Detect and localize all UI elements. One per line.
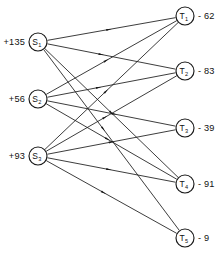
node-t1[interactable]: T1 xyxy=(176,7,194,25)
node-s1[interactable]: S1 xyxy=(29,33,47,51)
arcs-layer xyxy=(44,18,180,234)
arc-s2-t4 xyxy=(46,104,177,179)
arrowhead-s2-t1 xyxy=(103,59,108,63)
nodes-layer: S1S2S3T1T2T3T4T5 xyxy=(29,7,194,247)
demand-value-t3: - 39 xyxy=(198,123,215,133)
arc-s1-t2 xyxy=(47,44,175,69)
demand-value-t4: - 91 xyxy=(198,179,215,189)
arrowhead-s3-t2 xyxy=(102,116,107,120)
supply-value-s3: +93 xyxy=(9,151,25,161)
transportation-network-diagram: S1S2S3T1T2T3T4T5 +135+56+93- 62- 83- 39-… xyxy=(0,0,218,255)
node-s3[interactable]: S3 xyxy=(29,147,47,165)
demand-value-t1: - 62 xyxy=(198,11,215,21)
arrowhead-s3-t4 xyxy=(106,168,111,170)
arrowhead-s2-t2 xyxy=(96,87,101,89)
node-t5[interactable]: T5 xyxy=(176,229,194,247)
arrowhead-s1-t2 xyxy=(98,53,103,55)
demand-value-t5: - 9 xyxy=(198,233,209,243)
node-t2[interactable]: T2 xyxy=(176,62,194,80)
arc-s2-t1 xyxy=(46,21,176,95)
supply-value-s1: +135 xyxy=(4,37,26,47)
supply-value-s2: +56 xyxy=(9,94,25,104)
node-t4[interactable]: T4 xyxy=(176,175,194,193)
arrowhead-s1-t1 xyxy=(106,29,111,31)
node-t3[interactable]: T3 xyxy=(176,119,194,137)
node-s2[interactable]: S2 xyxy=(29,90,47,108)
arc-s1-t5 xyxy=(44,50,180,231)
arc-s3-t5 xyxy=(46,161,176,234)
arc-s3-t1 xyxy=(45,23,178,150)
network-graph-canvas: S1S2S3T1T2T3T4T5 +135+56+93- 62- 83- 39-… xyxy=(0,0,218,255)
demand-value-t2: - 83 xyxy=(198,66,215,76)
arrowhead-s3-t5 xyxy=(101,190,106,194)
arc-s2-t2 xyxy=(47,73,175,97)
arrowhead-s2-t3 xyxy=(111,113,116,115)
